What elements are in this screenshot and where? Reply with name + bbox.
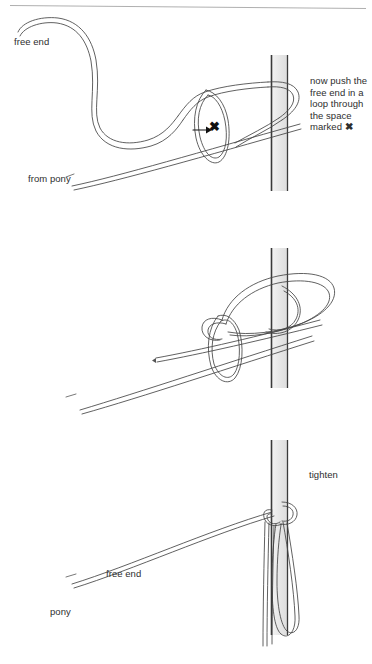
caption-step-1-text: now push the free end in a loop through … [310, 75, 367, 132]
post-icon [271, 55, 288, 191]
label-free-end-step1: free end [14, 36, 49, 47]
label-from-pony: from pony [28, 173, 71, 184]
x-mark-inline: ✖ [345, 121, 353, 132]
knot-drawing-step-3 [0, 430, 372, 664]
rope-path [66, 502, 299, 646]
rope-path [66, 273, 335, 414]
knot-drawing-step-2 [0, 220, 372, 430]
panel-step-1: free end from pony now push the free end… [0, 0, 372, 220]
panel-step-2: tighten free end pony [0, 220, 372, 430]
rope-path [18, 18, 301, 190]
panel-step-3: if you pull the free end the knot falls … [0, 430, 372, 664]
post-icon [271, 248, 288, 388]
figure-page: free end from pony now push the free end… [0, 0, 372, 664]
x-mark-icon: ✖ [209, 120, 220, 133]
caption-step-1: now push the free end in a loop through … [310, 75, 372, 133]
